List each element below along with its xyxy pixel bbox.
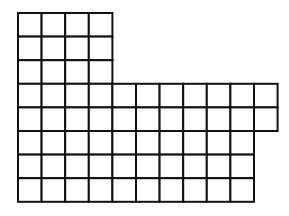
grid-cell — [207, 84, 231, 108]
grid-cell — [65, 13, 89, 37]
grid-cell — [160, 155, 184, 179]
grid-cell — [136, 131, 160, 155]
grid-cell — [230, 178, 254, 202]
bottom-block — [18, 131, 254, 202]
grid-cell — [42, 178, 66, 202]
grid-cell — [65, 131, 89, 155]
grid-cell — [89, 13, 113, 37]
grid-cell — [18, 131, 42, 155]
grid-cell — [136, 155, 160, 179]
grid-cell — [207, 107, 231, 131]
grid-cell — [89, 60, 113, 84]
grid-cell — [112, 178, 136, 202]
grid-cell — [89, 131, 113, 155]
grid-cell — [42, 107, 66, 131]
grid-cell — [18, 13, 42, 37]
grid-cell — [65, 84, 89, 108]
grid-cell — [18, 84, 42, 108]
grid-cell — [112, 155, 136, 179]
top-block — [18, 13, 112, 84]
grid-cell — [254, 84, 278, 108]
stepped-grid-diagram — [0, 0, 289, 216]
grid-cell — [112, 84, 136, 108]
grid-cell — [183, 84, 207, 108]
grid-cell — [65, 155, 89, 179]
grid-cell — [160, 131, 184, 155]
grid-cell — [183, 178, 207, 202]
grid-cell — [160, 107, 184, 131]
grid-cell — [183, 155, 207, 179]
grid-cell — [89, 107, 113, 131]
grid-cell — [207, 178, 231, 202]
grid-cell — [65, 178, 89, 202]
grid-cell — [207, 155, 231, 179]
grid-cell — [230, 131, 254, 155]
grid-cell — [230, 155, 254, 179]
grid-cell — [65, 60, 89, 84]
grid-cell — [89, 155, 113, 179]
grid-cell — [230, 84, 254, 108]
grid-cell — [160, 178, 184, 202]
middle-band — [18, 84, 278, 131]
grid-cell — [18, 155, 42, 179]
grid-cell — [89, 84, 113, 108]
grid-cell — [112, 107, 136, 131]
grid-cell — [42, 84, 66, 108]
grid-cell — [18, 178, 42, 202]
grid-cell — [42, 131, 66, 155]
grid-cell — [183, 131, 207, 155]
grid-cell — [42, 60, 66, 84]
grid-cell — [136, 107, 160, 131]
grid-cell — [89, 178, 113, 202]
grid-cell — [136, 178, 160, 202]
grid-cell — [65, 37, 89, 61]
grid-cell — [42, 155, 66, 179]
grid-cell — [254, 107, 278, 131]
grid-cell — [160, 84, 184, 108]
grid-cell — [112, 131, 136, 155]
grid-cell — [65, 107, 89, 131]
grid-cell — [136, 84, 160, 108]
grid-cell — [18, 60, 42, 84]
grid-cell — [183, 107, 207, 131]
grid-cell — [42, 13, 66, 37]
grid-cell — [207, 131, 231, 155]
grid-cell — [230, 107, 254, 131]
grid-cell — [18, 37, 42, 61]
grid-cell — [42, 37, 66, 61]
grid-cell — [89, 37, 113, 61]
grid-cell — [18, 107, 42, 131]
